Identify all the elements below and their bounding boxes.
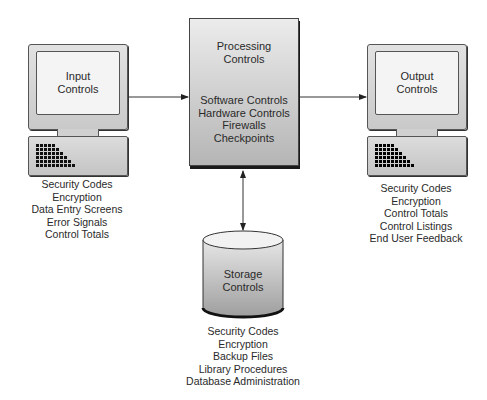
list-item: Firewalls	[190, 119, 298, 132]
storage-title-line1: Storage	[200, 268, 286, 281]
list-item: Control Totals	[347, 207, 485, 220]
list-item: Control Listings	[347, 220, 485, 233]
list-item: Security Codes	[347, 182, 485, 195]
output-title-line1: Output	[397, 70, 438, 83]
processing-title: Processing Controls	[190, 40, 298, 65]
processing-controls-list: Software Controls Hardware Controls Fire…	[190, 94, 298, 144]
list-item: Library Procedures	[163, 363, 323, 376]
list-item: Error Signals	[8, 216, 146, 229]
input-screen: Input Controls	[36, 51, 120, 115]
input-monitor: Input Controls	[28, 44, 128, 130]
storage-controls-list: Security Codes Encryption Backup Files L…	[163, 325, 323, 388]
list-item: Control Totals	[8, 228, 146, 241]
list-item: Backup Files	[163, 350, 323, 363]
list-item: Security Codes	[8, 178, 146, 191]
output-controls-list: Security Codes Encryption Control Totals…	[347, 182, 485, 245]
input-title-line1: Input	[58, 70, 99, 83]
input-cpu-base	[28, 136, 128, 176]
list-item: Database Administration	[163, 375, 323, 388]
list-item: Software Controls	[190, 94, 298, 107]
list-item: Data Entry Screens	[8, 203, 146, 216]
list-item: Encryption	[347, 195, 485, 208]
output-monitor: Output Controls	[367, 44, 467, 130]
keypad-icon	[375, 144, 421, 170]
list-item: Security Codes	[163, 325, 323, 338]
keypad-icon	[36, 144, 82, 170]
processing-title-line2: Controls	[190, 53, 298, 66]
output-screen: Output Controls	[375, 51, 459, 115]
output-title-line2: Controls	[397, 83, 438, 96]
input-controls-list: Security Codes Encryption Data Entry Scr…	[8, 178, 146, 241]
storage-title: Storage Controls	[200, 268, 286, 294]
processing-controls-box: Processing Controls Software Controls Ha…	[189, 18, 299, 166]
list-item: Hardware Controls	[190, 107, 298, 120]
input-title-line2: Controls	[58, 83, 99, 96]
processing-title-line1: Processing	[190, 40, 298, 53]
output-cpu-base	[367, 136, 467, 176]
list-item: Encryption	[8, 191, 146, 204]
storage-title-line2: Controls	[200, 281, 286, 294]
list-item: Encryption	[163, 338, 323, 351]
list-item: End User Feedback	[347, 232, 485, 245]
list-item: Checkpoints	[190, 132, 298, 145]
